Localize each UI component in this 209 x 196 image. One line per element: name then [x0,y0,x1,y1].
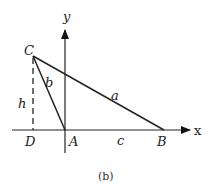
x-axis-label: x [194,123,202,138]
side-b-line [33,56,65,130]
side-b-label: b [45,75,53,90]
side-a-label: a [111,88,119,103]
side-c-label: c [117,133,125,148]
height-h-label: h [18,96,26,111]
point-c-label: C [24,43,34,58]
point-d-label: D [24,134,36,149]
y-axis-label: y [62,9,71,24]
diagram-canvas: y x C D A B b a c h (b) [0,0,209,196]
side-a-line [33,56,164,130]
triangle-diagram: y x C D A B b a c h (b) [0,0,209,196]
point-b-label: B [156,134,167,149]
figure-caption: (b) [98,170,114,183]
point-a-label: A [68,134,78,149]
